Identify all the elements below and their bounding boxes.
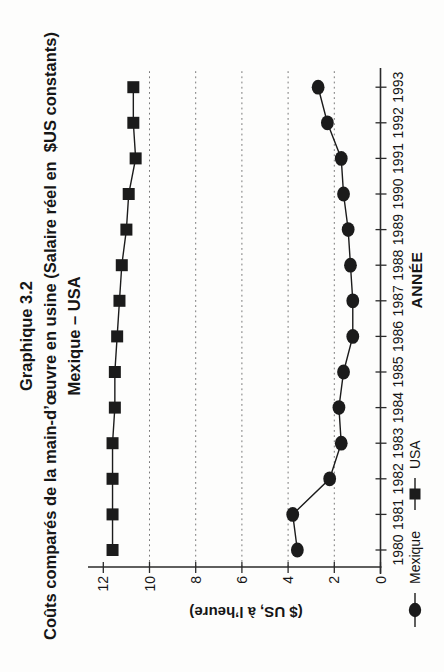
- data-point-usa-1985: [109, 366, 121, 378]
- data-point-usa-1981: [107, 508, 119, 520]
- legend-marker-mexique-icon: [406, 592, 424, 628]
- data-point-usa-1991: [130, 152, 142, 164]
- rotated-chart-canvas: Graphique 3.2 Coûts comparés de la main-…: [0, 0, 444, 672]
- x-tick-label-1989: 1989: [390, 214, 406, 245]
- data-point-mexique-1988: [344, 258, 357, 273]
- chart-plot: 0246810121980198119821983198419851986198…: [0, 0, 444, 672]
- data-point-usa-1992: [127, 117, 139, 129]
- x-tick-label-1990: 1990: [390, 178, 406, 209]
- data-point-mexique-1985: [337, 365, 350, 380]
- legend: Mexique USA: [404, 428, 426, 628]
- data-point-usa-1993: [127, 81, 139, 93]
- legend-marker-usa-icon: [406, 477, 424, 511]
- data-point-usa-1987: [113, 295, 125, 307]
- data-point-usa-1990: [123, 188, 135, 200]
- data-point-mexique-1980: [291, 543, 304, 558]
- data-point-mexique-1984: [333, 400, 346, 415]
- y-tick-label-8: 8: [188, 576, 204, 584]
- x-tick-label-1985: 1985: [390, 356, 406, 387]
- y-axis-title: ($ US, à l’heure): [165, 599, 327, 621]
- x-axis-title: ANNÉE: [408, 220, 426, 340]
- data-point-mexique-1992: [321, 115, 334, 130]
- y-tick-label-10: 10: [142, 576, 158, 592]
- x-tick-label-1984: 1984: [390, 392, 406, 423]
- y-tick-label-2: 2: [326, 576, 342, 584]
- data-point-mexique-1986: [346, 329, 359, 344]
- data-point-usa-1984: [109, 402, 121, 414]
- y-tick-label-4: 4: [280, 576, 296, 584]
- data-point-mexique-1990: [337, 187, 350, 202]
- data-point-usa-1988: [116, 259, 128, 271]
- x-tick-label-1993: 1993: [390, 71, 406, 102]
- data-point-usa-1982: [107, 473, 119, 485]
- y-tick-label-0: 0: [373, 576, 389, 584]
- legend-label-usa: USA: [407, 440, 423, 469]
- data-point-usa-1986: [111, 330, 123, 342]
- data-point-usa-1983: [107, 437, 119, 449]
- data-point-mexique-1991: [335, 151, 348, 166]
- data-point-mexique-1981: [286, 507, 299, 522]
- x-tick-label-1992: 1992: [390, 107, 406, 138]
- y-tick-label-6: 6: [234, 576, 250, 584]
- data-point-mexique-1987: [346, 293, 359, 308]
- x-tick-label-1988: 1988: [390, 249, 406, 280]
- data-point-usa-1989: [120, 224, 132, 236]
- data-point-mexique-1983: [335, 436, 348, 451]
- x-tick-label-1991: 1991: [390, 143, 406, 174]
- y-tick-label-12: 12: [95, 576, 111, 592]
- data-point-usa-1980: [107, 544, 119, 556]
- x-tick-label-1986: 1986: [390, 321, 406, 352]
- x-tick-label-1987: 1987: [390, 285, 406, 316]
- legend-label-mexique: Mexique: [407, 531, 423, 584]
- data-point-mexique-1993: [312, 80, 325, 95]
- scanned-chart-page: Graphique 3.2 Coûts comparés de la main-…: [0, 0, 444, 672]
- data-point-mexique-1982: [323, 471, 336, 486]
- data-point-mexique-1989: [342, 222, 355, 237]
